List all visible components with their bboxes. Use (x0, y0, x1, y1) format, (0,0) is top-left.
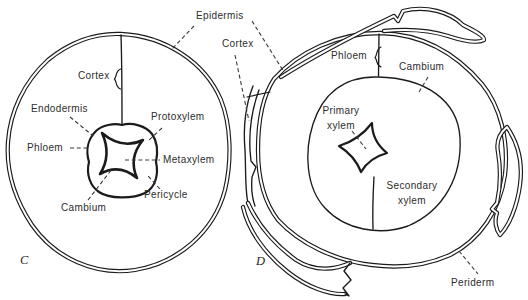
epidermis-leader-right (252, 21, 284, 72)
phloem-brace-d (375, 47, 381, 67)
label-pericycle: Pericycle (144, 189, 188, 200)
periderm-ribbon-torn-end (343, 263, 351, 296)
label-cortex-c: Cortex (78, 70, 110, 81)
label-secondary-xylem-line1: Secondary (380, 179, 444, 194)
label-secondary-xylem-line2: xylem (380, 194, 444, 209)
label-primary-xylem-line1: Primary (312, 104, 370, 119)
label-endodermis: Endodermis (31, 103, 88, 114)
cortex-d-leader (235, 55, 249, 121)
endodermis-leader (70, 117, 92, 135)
label-phloem-d: Phloem (331, 50, 367, 61)
label-primary-xylem-line2: xylem (312, 119, 370, 134)
label-phloem-c: Phloem (27, 142, 63, 153)
root-section-d (243, 9, 521, 296)
periderm-leader (459, 251, 478, 274)
figure-canvas: Epidermis Cortex Endodermis Phloem Proto… (0, 0, 528, 300)
label-secondary-xylem: Secondary xylem (380, 179, 444, 208)
label-cambium-d: Cambium (399, 61, 444, 72)
label-protoxylem: Protoxylem (151, 111, 205, 122)
label-cambium-c: Cambium (61, 202, 106, 213)
label-cortex-d: Cortex (222, 38, 254, 49)
secondary-xylem-divider-line (373, 177, 374, 229)
epidermis-peel-band (281, 9, 484, 77)
phloem-divider-line-d (379, 34, 380, 76)
epidermis-leader-left (172, 26, 194, 49)
cortex-divider-line-c (121, 35, 122, 125)
label-primary-xylem: Primary xylem (312, 104, 370, 133)
pericycle-leader (148, 176, 160, 189)
label-metaxylem: Metaxylem (163, 154, 215, 165)
xylem-star-c (100, 133, 143, 178)
label-periderm: Periderm (451, 277, 494, 288)
label-epidermis: Epidermis (196, 10, 244, 21)
caption-panel-d: D (256, 254, 265, 269)
leader-lines (70, 21, 478, 274)
cortex-brace-c (115, 69, 121, 89)
stele-outline-c (87, 124, 157, 197)
caption-panel-c: C (20, 253, 28, 268)
